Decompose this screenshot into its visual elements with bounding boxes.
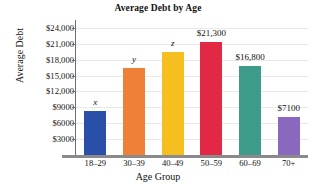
y-axis-tick	[72, 123, 76, 124]
y-axis-tick	[72, 44, 76, 45]
y-axis-tick-labels: $3000$6000$9000$12,000$15,000$18,000$21,…	[0, 20, 74, 155]
bar-data-label: y	[104, 55, 164, 64]
x-axis-title: Age Group	[0, 171, 316, 182]
bar[interactable]	[162, 52, 184, 155]
x-axis-tick-labels: 18–2930–3940–4950–5960–6970+	[76, 158, 308, 172]
bar-data-label: $7100	[259, 104, 316, 113]
bar[interactable]	[278, 117, 300, 155]
bar[interactable]	[84, 111, 106, 155]
x-axis-tick-label: 18–29	[75, 158, 115, 168]
bar-data-label: z	[143, 39, 203, 48]
bar-data-label: x	[65, 98, 125, 107]
gridline	[76, 76, 308, 77]
x-axis-tick-label: 50–59	[191, 158, 231, 168]
x-axis-tick-label: 60–69	[230, 158, 270, 168]
plot-area: xyz$21,300$16,800$7100	[76, 20, 308, 155]
y-axis-tick-label: $6000	[53, 119, 74, 128]
y-axis-tick-label: $15,000	[46, 72, 74, 81]
bar-chart: Average Debt by Age Average Debt $3000$6…	[0, 0, 316, 187]
y-axis-tick	[72, 107, 76, 108]
bar-data-label: $21,300	[181, 29, 241, 38]
y-axis-tick-label: $12,000	[46, 87, 74, 96]
y-axis-tick	[72, 139, 76, 140]
chart-title: Average Debt by Age	[0, 3, 316, 13]
y-axis-tick-label: $18,000	[46, 56, 74, 65]
y-axis-tick-label: $21,000	[46, 40, 74, 49]
gridline	[76, 91, 308, 92]
y-axis-tick-label: $3000	[53, 135, 74, 144]
y-axis-tick	[72, 60, 76, 61]
y-axis-tick	[72, 76, 76, 77]
bar[interactable]	[123, 68, 145, 155]
gridline	[76, 139, 308, 140]
x-axis-tick-label: 70+	[269, 158, 309, 168]
x-axis-tick-label: 30–39	[114, 158, 154, 168]
y-axis-tick-label: $24,000	[46, 24, 74, 33]
bar-data-label: $16,800	[220, 53, 280, 62]
y-axis-tick	[72, 28, 76, 29]
gridline	[76, 123, 308, 124]
x-axis-tick-label: 40–49	[153, 158, 193, 168]
y-axis-tick	[72, 91, 76, 92]
